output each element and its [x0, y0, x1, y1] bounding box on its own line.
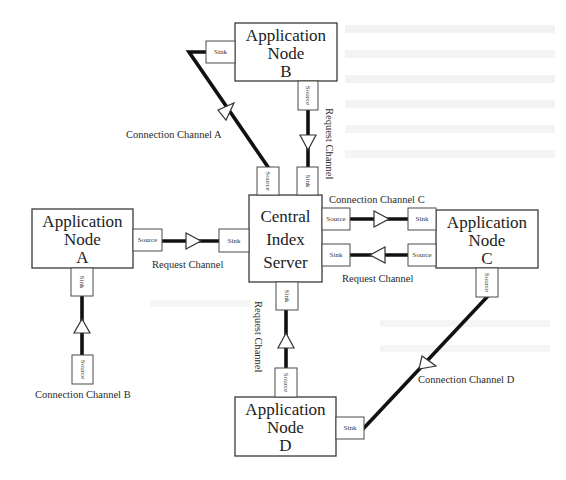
arrow-connection-c: [374, 211, 389, 227]
node-c-label-line1: Application: [447, 213, 528, 232]
server-source-top[interactable]: Source: [257, 167, 279, 195]
port-label: Source: [79, 360, 87, 379]
arrow-connection-b: [74, 319, 90, 333]
port-label: Source: [483, 273, 491, 292]
node-a-label-line1: Application: [42, 212, 123, 231]
ghost-line: [345, 150, 555, 158]
port-label: Source: [412, 251, 431, 259]
node-a-label-line2: Node: [64, 230, 101, 249]
node-c-label-line2: Node: [469, 231, 506, 250]
ghost-line: [150, 300, 250, 307]
node-d-label-line3: D: [279, 436, 291, 455]
port-label: Sink: [283, 290, 291, 303]
ghost-line: [345, 50, 555, 58]
server-sink-bottom[interactable]: Sink: [276, 282, 298, 310]
port-label: Sink: [78, 276, 86, 289]
connection-channel-d-label: Connection Channel D: [418, 374, 515, 385]
port-label: Source: [282, 373, 290, 392]
ghost-line: [345, 75, 555, 83]
node-a-label-line3: A: [76, 248, 89, 267]
ghost-line: [345, 100, 555, 108]
connection-channel-a-label: Connection Channel A: [126, 129, 222, 140]
port-label: Sink: [214, 48, 227, 56]
port-label: Sink: [228, 237, 241, 245]
node-b-label-line3: B: [280, 62, 291, 81]
central-index-server[interactable]: Central Index Server: [249, 195, 322, 282]
application-node-b[interactable]: Application Node B: [235, 23, 337, 81]
node-d-source[interactable]: Source: [275, 368, 297, 397]
server-sink-left[interactable]: Sink: [219, 229, 249, 252]
port-label: Sink: [344, 424, 357, 432]
node-b-sink[interactable]: Sink: [206, 41, 235, 63]
node-c-source-left[interactable]: Source: [408, 244, 436, 266]
port-label: Sink: [304, 175, 312, 188]
port-label: Source: [326, 215, 345, 223]
connection-channel-c-label: Connection Channel C: [329, 194, 425, 205]
background-bleed-through: [150, 25, 555, 352]
node-d-label-line2: Node: [267, 418, 304, 437]
node-c-label-line3: C: [481, 249, 492, 268]
arrow-request-a: [186, 233, 201, 249]
port-label: Sink: [330, 251, 343, 259]
port-label: Source: [304, 86, 312, 105]
node-c-source-bottom[interactable]: Source: [476, 268, 498, 297]
server-sink-top[interactable]: Sink: [297, 167, 318, 195]
node-d-sink[interactable]: Sink: [336, 417, 364, 439]
port-label: Sink: [416, 215, 429, 223]
application-node-d[interactable]: Application Node D: [235, 397, 336, 456]
application-node-c[interactable]: Application Node C: [436, 210, 538, 268]
channel-b-source[interactable]: Source: [72, 355, 93, 384]
request-channel-a-label: Request Channel: [152, 259, 224, 270]
request-channel-b-label: Request Channel: [324, 108, 335, 180]
ghost-line: [380, 345, 550, 352]
node-b-source[interactable]: Source: [298, 81, 318, 110]
node-d-label-line1: Application: [245, 400, 326, 419]
request-channel-d-label: Request Channel: [253, 301, 264, 373]
port-label: Source: [264, 171, 272, 190]
node-a-source[interactable]: Source: [133, 229, 162, 251]
arrow-request-c: [370, 247, 385, 263]
ghost-line: [345, 125, 555, 133]
connection-channel-b-label: Connection Channel B: [35, 389, 131, 400]
arrow-request-d: [278, 333, 294, 348]
node-c-sink[interactable]: Sink: [408, 208, 436, 230]
server-source-right[interactable]: Source: [322, 208, 350, 230]
application-node-a[interactable]: Application Node A: [32, 209, 133, 268]
server-label-line3: Server: [263, 253, 308, 272]
server-sink-right[interactable]: Sink: [322, 244, 350, 266]
node-a-sink[interactable]: Sink: [71, 268, 93, 296]
arrow-request-b: [300, 135, 316, 150]
port-label: Source: [138, 236, 157, 244]
ghost-line: [345, 25, 555, 33]
node-b-label-line2: Node: [268, 44, 305, 63]
server-label-line1: Central: [260, 207, 310, 226]
channel-architecture-diagram: Central Index Server Source Sink Sink So…: [0, 0, 566, 480]
request-channel-c-label: Request Channel: [342, 273, 414, 284]
node-b-label-line1: Application: [246, 26, 327, 45]
server-label-line2: Index: [266, 230, 305, 249]
